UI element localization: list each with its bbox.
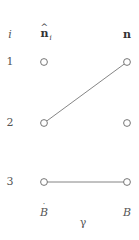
right-footer-label: B xyxy=(123,207,131,219)
bipartite-matching-diagram: i ^ n i n 1 2 3 ˙ B B γ xyxy=(0,0,139,240)
left-node-1 xyxy=(41,59,48,66)
dot-accent: ˙ xyxy=(42,201,47,213)
right-node-1 xyxy=(124,59,131,66)
matching-label-gamma: γ xyxy=(80,217,87,229)
right-node-3 xyxy=(124,179,131,186)
right-node-2 xyxy=(124,120,131,127)
edges-layer xyxy=(0,0,139,240)
b-dot-symbol: ˙ B xyxy=(40,207,48,219)
edge-2-to-1 xyxy=(44,62,127,123)
left-footer-label: ˙ B xyxy=(40,207,48,219)
left-node-2 xyxy=(41,120,48,127)
left-node-3 xyxy=(41,179,48,186)
